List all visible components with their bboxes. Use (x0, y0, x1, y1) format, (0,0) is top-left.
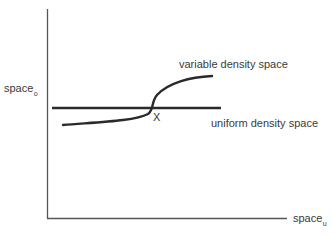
uniform-density-label: uniform density space (211, 118, 318, 129)
variable-density-curve (63, 76, 212, 125)
y-axis-label: spaceo (4, 83, 38, 94)
x-axis-label-subscript: u (323, 220, 327, 227)
y-axis-label-subscript: o (34, 90, 38, 97)
x-axis-label: spaceu (293, 213, 327, 224)
intersection-label: X (153, 112, 160, 123)
y-axis-label-text: space (4, 82, 33, 94)
x-axis-label-text: space (293, 212, 322, 224)
variable-density-label: variable density space (179, 59, 288, 70)
